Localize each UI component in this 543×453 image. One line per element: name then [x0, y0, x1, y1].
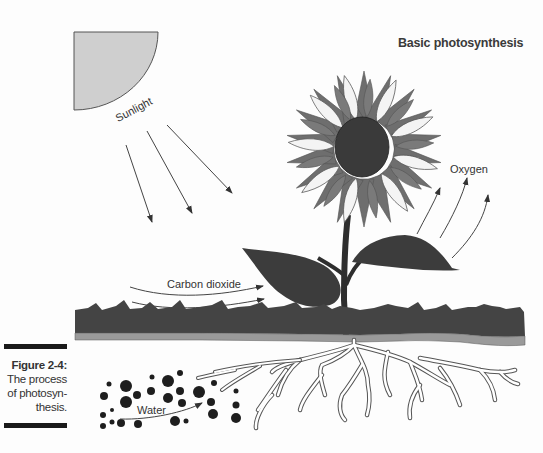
oxygen-label: Oxygen: [450, 163, 488, 175]
water-label: Water: [137, 404, 166, 416]
flower-center: [335, 117, 389, 177]
photosynthesis-diagram: Basic photosynthesis Sunlight Oxygen Car…: [0, 0, 543, 453]
caption-rule-bottom: [4, 423, 67, 428]
caption-line: thesis.: [0, 400, 67, 414]
figure-caption: Figure 2-4: The process of photosyn- the…: [0, 344, 67, 428]
figure-title: Basic photosynthesis: [398, 36, 523, 50]
leaf-icon: [242, 248, 341, 307]
caption-text: The process of photosyn- thesis.: [0, 372, 67, 414]
water-droplets-icon: [100, 370, 241, 429]
sunlight-arrows: [126, 125, 232, 222]
carbon-dioxide-label: Carbon dioxide: [167, 278, 241, 290]
leaf-icon: [352, 235, 460, 271]
figure-number: Figure 2-4:: [0, 358, 67, 372]
diagram-artwork: [0, 0, 543, 453]
sunflower-icon: [285, 71, 442, 227]
caption-line: The process: [0, 372, 67, 386]
ground: [75, 300, 525, 346]
roots-inner: [256, 340, 518, 428]
caption-line: of photosyn-: [0, 386, 67, 400]
caption-rule-top: [4, 344, 67, 349]
